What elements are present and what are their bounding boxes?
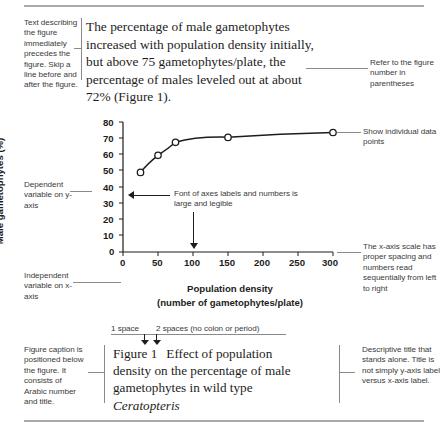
y-tick-label-70: 70 — [103, 133, 114, 144]
annotation-spacing-one: 1 space — [111, 324, 151, 334]
x-tick-label-200: 200 — [254, 257, 270, 268]
annotation-left-middle: Dependent variable on y-axis — [24, 180, 84, 211]
caption-species-name: Ceratopteris — [113, 398, 180, 413]
x-tick-label-50: 50 — [152, 257, 163, 268]
x-tick-label-150: 150 — [219, 257, 235, 268]
y-tick-label-30: 30 — [103, 198, 114, 209]
annotation-spacing-underline — [111, 334, 286, 335]
data-point — [137, 169, 143, 175]
data-point — [225, 134, 231, 140]
inner-annotation-arrow-down-shaft — [193, 212, 194, 244]
caption-title-line3: in wild type — [190, 380, 253, 395]
annotation-right-upper: Show individual data points — [363, 127, 443, 148]
x-tick-label-0: 0 — [120, 257, 125, 268]
x-tick-label-250: 250 — [289, 257, 305, 268]
data-point — [172, 139, 178, 145]
x-tick-marks — [123, 252, 333, 256]
y-tick-label-10: 10 — [103, 230, 114, 241]
annotation-right-upper-connector — [337, 132, 361, 133]
annotation-right-bottom-bracket — [339, 345, 340, 403]
y-tick-label-50: 50 — [103, 165, 114, 176]
data-series-line — [141, 133, 334, 173]
y-tick-label-60: 60 — [103, 149, 114, 160]
inner-annotation-arrow-down — [190, 243, 198, 249]
annotation-right-top: Refer to the figure number in parenthese… — [370, 58, 436, 89]
data-point — [330, 129, 336, 135]
annotation-right-top-connector — [306, 68, 368, 69]
annotation-right-bottom-connector — [339, 372, 355, 373]
annotation-left-lower: Independent variable on x-axis — [24, 271, 86, 302]
y-tick-label-40: 40 — [103, 182, 114, 193]
x-axis-title-line2: (number of gametophytes/plate) — [140, 297, 320, 308]
x-axis-title-line1: Population density — [150, 283, 310, 294]
annotation-spacing-two: 2 spaces (no colon or period) — [156, 324, 286, 334]
inner-annotation-arrow-left-shaft — [134, 195, 170, 196]
annotation-left-lower-connector — [73, 282, 121, 283]
y-tick-label-80: 80 — [103, 117, 114, 128]
annotation-left-bottom-bracket — [104, 345, 105, 403]
annotation-right-bottom: Descriptive title that stands alone. Tit… — [362, 345, 444, 387]
annotation-left-bottom: Figure caption is positioned below the f… — [24, 345, 86, 407]
y-axis-title: Male gametophytes (%) — [0, 128, 5, 254]
annotation-left-middle-connector — [70, 191, 92, 192]
top-divider-rule — [24, 5, 424, 7]
data-point-markers — [137, 129, 336, 175]
annotation-left-bottom-connector — [88, 372, 104, 373]
annotation-left-top-bracket — [81, 18, 82, 80]
y-tick-label-0: 0 — [109, 246, 114, 257]
y-tick-marks — [119, 122, 123, 252]
x-tick-label-300: 300 — [322, 257, 338, 268]
inner-annotation-arrow-left — [128, 191, 134, 199]
annotation-left-top-connector — [74, 48, 82, 49]
annotation-left-top: Text describing the figure immediately p… — [24, 18, 80, 91]
data-point — [155, 152, 161, 158]
annotation-right-lower: The x-axis scale has proper spacing and … — [363, 242, 443, 294]
figure-caption: Figure 1Effect of population density on … — [113, 345, 313, 414]
x-tick-label-100: 100 — [184, 257, 200, 268]
bottom-divider-rule — [24, 420, 424, 422]
annotation-inner-plot: Font of axes labels and numbers is large… — [174, 189, 304, 210]
y-tick-label-20: 20 — [103, 214, 114, 225]
body-paragraph: The percentage of male gametophytes incr… — [86, 18, 324, 106]
caption-figure-number: Figure 1 — [113, 346, 157, 361]
annotation-right-lower-connector — [337, 252, 361, 253]
